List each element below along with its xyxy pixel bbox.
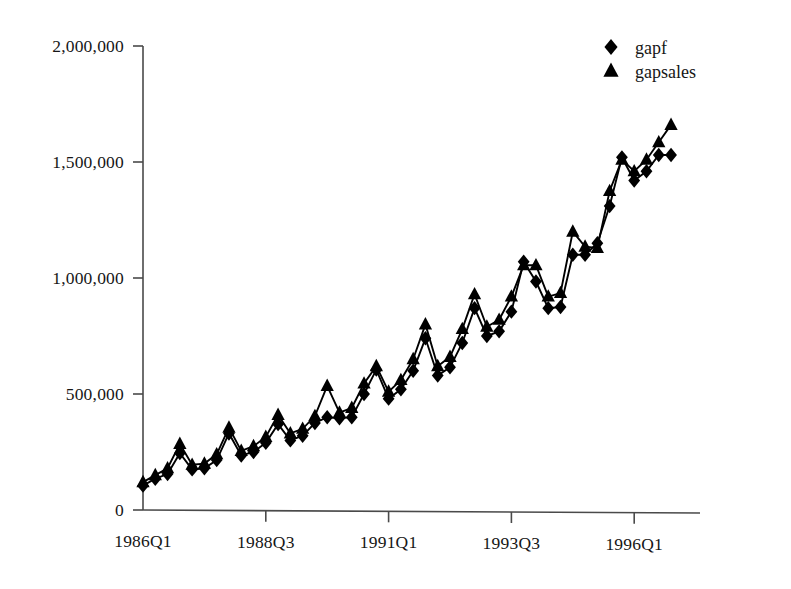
x-tick-label: 1996Q1 [605,534,663,554]
legend-label-gapf: gapf [635,38,667,58]
line-chart: 2,000,0001,500,0001,000,000500,0000 1986… [0,0,791,589]
x-tick-label: 1988Q3 [237,532,295,552]
x-tick-label: 1993Q3 [483,533,541,553]
y-tick-label: 1,500,000 [52,152,124,172]
legend-label-gapsales: gapsales [635,62,696,82]
x-tick-label: 1986Q1 [114,531,172,551]
chart-container: 2,000,0001,500,0001,000,000500,0000 1986… [0,0,791,589]
y-tick-label: 0 [115,500,124,520]
y-tick-label: 500,000 [66,384,124,404]
y-tick-label: 1,000,000 [52,268,124,288]
y-tick-label: 2,000,000 [52,36,124,56]
x-tick-label: 1991Q1 [360,532,418,552]
